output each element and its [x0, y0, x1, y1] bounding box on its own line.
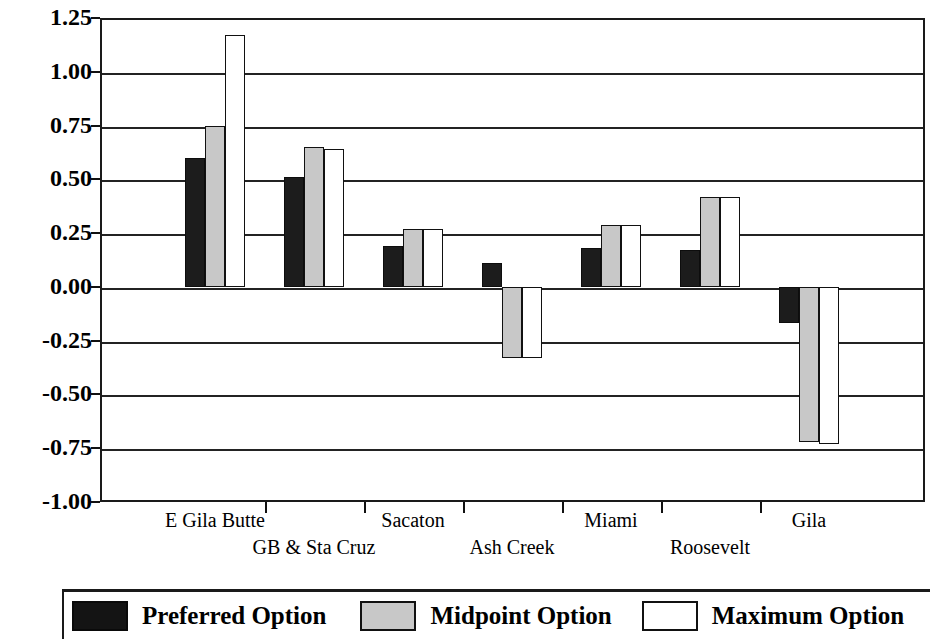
legend-item: Maximum Option — [642, 601, 904, 631]
y-tick-label: -0.25 — [0, 327, 92, 354]
y-tick-label: 0.25 — [0, 219, 92, 246]
y-tick-label: -0.50 — [0, 380, 92, 407]
bar-preferred — [185, 158, 205, 287]
bar-preferred — [383, 246, 403, 287]
bar-midpoint — [304, 147, 324, 287]
x-tick-mark — [661, 502, 663, 513]
legend-swatch-preferred — [72, 601, 128, 631]
bar-preferred — [680, 250, 700, 287]
legend-label: Preferred Option — [142, 602, 326, 630]
bar-maximum — [423, 229, 443, 287]
x-tick-mark — [760, 502, 762, 513]
bar-midpoint — [700, 197, 720, 287]
y-tick-label: 0.50 — [0, 165, 92, 192]
bar-maximum — [819, 287, 839, 444]
bar-maximum — [621, 225, 641, 287]
y-tick-mark — [91, 447, 100, 449]
y-tick-label: 1.00 — [0, 58, 92, 85]
y-tick-mark — [91, 393, 100, 395]
x-tick-mark — [463, 502, 465, 513]
x-axis-label: Ash Creek — [470, 536, 555, 559]
y-tick-mark — [91, 17, 100, 19]
y-tick-mark — [91, 286, 100, 288]
y-tick-label: -0.75 — [0, 434, 92, 461]
y-tick-mark — [91, 178, 100, 180]
x-axis-label: Miami — [584, 509, 637, 532]
legend-label: Maximum Option — [712, 602, 904, 630]
bar-preferred — [284, 177, 304, 287]
y-tick-label: -1.00 — [0, 488, 92, 515]
x-axis-label: E Gila Butte — [165, 509, 265, 532]
y-tick-mark — [91, 340, 100, 342]
bar-maximum — [522, 287, 542, 358]
legend-swatch-maximum — [642, 601, 698, 631]
bar-midpoint — [601, 225, 621, 287]
y-tick-mark — [91, 71, 100, 73]
y-tick-mark — [91, 501, 100, 503]
y-tick-label: 0.75 — [0, 112, 92, 139]
bar-maximum — [225, 35, 245, 287]
legend-swatch-midpoint — [360, 601, 416, 631]
x-axis-label: GB & Sta Cruz — [253, 536, 376, 559]
bar-chart-figure: Annual Percentage Change 1.251.000.750.5… — [0, 0, 931, 643]
bar-maximum — [720, 197, 740, 287]
x-axis-label: Sacaton — [381, 509, 444, 532]
bar-midpoint — [403, 229, 423, 287]
bar-midpoint — [502, 287, 522, 358]
bar-preferred — [779, 287, 799, 324]
x-tick-mark — [364, 502, 366, 513]
bars-layer — [100, 18, 925, 502]
legend: Preferred OptionMidpoint OptionMaximum O… — [62, 592, 930, 640]
y-tick-label: 1.25 — [0, 4, 92, 31]
x-axis-label: Roosevelt — [670, 536, 750, 559]
x-axis-label: Gila — [792, 509, 826, 532]
y-tick-mark — [91, 232, 100, 234]
legend-label: Midpoint Option — [430, 602, 611, 630]
y-tick-mark — [91, 125, 100, 127]
x-tick-mark — [562, 502, 564, 513]
bar-preferred — [581, 248, 601, 287]
bar-midpoint — [799, 287, 819, 442]
bar-maximum — [324, 149, 344, 287]
bar-midpoint — [205, 126, 225, 287]
y-tick-label: 0.00 — [0, 273, 92, 300]
legend-item: Midpoint Option — [360, 601, 611, 631]
bar-preferred — [482, 263, 502, 287]
legend-item: Preferred Option — [72, 601, 326, 631]
